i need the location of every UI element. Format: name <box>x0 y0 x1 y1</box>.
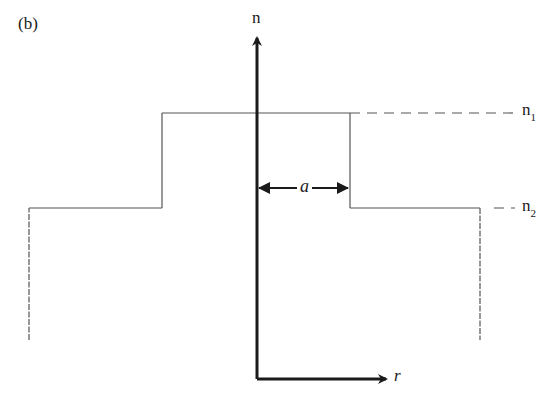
profile-plot <box>0 0 559 407</box>
core-radius-label: a <box>297 176 312 197</box>
level-reference-lines <box>350 113 515 208</box>
index-profile-line <box>29 113 480 340</box>
